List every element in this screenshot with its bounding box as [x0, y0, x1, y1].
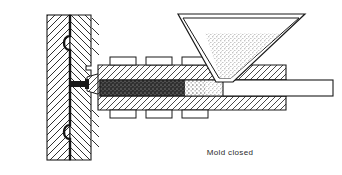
diagram-canvas: Mold closed: [0, 0, 342, 175]
heater-bands-bottom: [110, 110, 208, 118]
figure-caption: Mold closed: [170, 148, 290, 157]
screw-shaft: [223, 80, 333, 96]
melt-zone: [100, 80, 185, 96]
heater-bands-top: [110, 57, 208, 65]
platen-hatch-upper: [92, 18, 99, 55]
platen-hatch-lower: [92, 110, 99, 147]
